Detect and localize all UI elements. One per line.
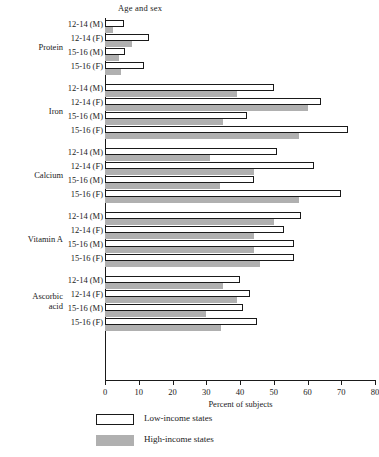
bar-high-income bbox=[105, 69, 121, 75]
bar-low-income bbox=[105, 176, 254, 183]
x-tick bbox=[206, 380, 207, 385]
bar-low-income bbox=[105, 318, 257, 325]
x-tick-label: 40 bbox=[236, 387, 245, 397]
bar-row bbox=[105, 254, 376, 268]
bar-row bbox=[105, 148, 376, 162]
category-label: 15-16 (F) bbox=[71, 253, 103, 263]
category-label: 15-16 (M) bbox=[68, 175, 103, 185]
category-label: 15-16 (F) bbox=[71, 317, 103, 327]
bar-low-income bbox=[105, 62, 144, 69]
category-label: 12-14 (M) bbox=[68, 211, 103, 221]
bar-group bbox=[105, 276, 376, 332]
x-tick bbox=[274, 380, 275, 385]
bar-low-income bbox=[105, 240, 294, 247]
category-label: 12-14 (F) bbox=[71, 97, 103, 107]
category-label: 12-14 (F) bbox=[71, 289, 103, 299]
x-tick bbox=[308, 380, 309, 385]
bar-high-income bbox=[105, 169, 254, 175]
x-tick-label: 30 bbox=[202, 387, 211, 397]
bar-row bbox=[105, 98, 376, 112]
bar-row bbox=[105, 190, 376, 204]
legend-label-high-income: High-income states bbox=[144, 434, 214, 444]
bar-row bbox=[105, 318, 376, 332]
bar-group bbox=[105, 84, 376, 140]
bar-row bbox=[105, 126, 376, 140]
legend-label-low-income: Low-income states bbox=[144, 413, 212, 423]
bar-row bbox=[105, 290, 376, 304]
bar-row bbox=[105, 226, 376, 240]
bar-high-income bbox=[105, 311, 206, 317]
x-tick bbox=[341, 380, 342, 385]
bar-low-income bbox=[105, 276, 240, 283]
bar-low-income bbox=[105, 212, 301, 219]
x-tick bbox=[105, 380, 106, 385]
category-label: 15-16 (M) bbox=[68, 239, 103, 249]
bar-row bbox=[105, 240, 376, 254]
group-label: Iron bbox=[0, 106, 63, 116]
bar-row bbox=[105, 34, 376, 48]
category-label: 12-14 (F) bbox=[71, 33, 103, 43]
bar-row bbox=[105, 20, 376, 34]
bar-low-income bbox=[105, 20, 124, 27]
bar-row bbox=[105, 276, 376, 290]
legend-swatch-low-income bbox=[96, 414, 134, 425]
x-tick-label: 10 bbox=[135, 387, 144, 397]
legend-swatch-high-income bbox=[96, 435, 134, 446]
x-tick-label: 60 bbox=[303, 387, 312, 397]
category-label: 15-16 (M) bbox=[68, 111, 103, 121]
bar-high-income bbox=[105, 325, 221, 331]
bar-high-income bbox=[105, 119, 223, 125]
bar-low-income bbox=[105, 98, 321, 105]
bar-low-income bbox=[105, 34, 149, 41]
bar-high-income bbox=[105, 297, 237, 303]
category-label: 15-16 (M) bbox=[68, 303, 103, 313]
plot-area: 01020304050607080 Percent of subjects bbox=[105, 18, 376, 380]
bar-high-income bbox=[105, 105, 308, 111]
bar-low-income bbox=[105, 112, 247, 119]
bar-row bbox=[105, 212, 376, 226]
bar-high-income bbox=[105, 197, 299, 203]
bar-group bbox=[105, 20, 376, 76]
bar-high-income bbox=[105, 247, 254, 253]
bar-high-income bbox=[105, 41, 132, 47]
group-label: Ascorbicacid bbox=[0, 291, 63, 311]
group-label: Calcium bbox=[0, 170, 63, 180]
bar-high-income bbox=[105, 283, 223, 289]
bar-row bbox=[105, 176, 376, 190]
category-label: 12-14 (M) bbox=[68, 275, 103, 285]
bar-low-income bbox=[105, 290, 250, 297]
category-label: 12-14 (M) bbox=[68, 83, 103, 93]
bar-high-income bbox=[105, 133, 299, 139]
category-label: 15-16 (M) bbox=[68, 47, 103, 57]
bar-high-income bbox=[105, 91, 237, 97]
bar-high-income bbox=[105, 219, 274, 225]
x-tick bbox=[173, 380, 174, 385]
x-tick-label: 70 bbox=[337, 387, 346, 397]
bar-row bbox=[105, 62, 376, 76]
bar-high-income bbox=[105, 233, 254, 239]
x-tick bbox=[240, 380, 241, 385]
bar-low-income bbox=[105, 48, 125, 55]
bar-high-income bbox=[105, 155, 210, 161]
x-axis-label: Percent of subjects bbox=[105, 399, 376, 409]
x-tick bbox=[375, 380, 376, 385]
category-label: 12-14 (M) bbox=[68, 19, 103, 29]
group-label: Vitamin A bbox=[0, 234, 63, 244]
category-label: 15-16 (F) bbox=[71, 189, 103, 199]
bar-low-income bbox=[105, 148, 277, 155]
y-axis-title: Age and sex bbox=[118, 3, 162, 13]
category-label: 12-14 (F) bbox=[71, 161, 103, 171]
bar-row bbox=[105, 84, 376, 98]
bar-low-income bbox=[105, 254, 294, 261]
x-tick-label: 0 bbox=[103, 387, 107, 397]
x-tick bbox=[139, 380, 140, 385]
category-label: 15-16 (F) bbox=[71, 61, 103, 71]
bar-high-income bbox=[105, 55, 119, 61]
bar-row bbox=[105, 48, 376, 62]
bar-row bbox=[105, 112, 376, 126]
bar-high-income bbox=[105, 261, 260, 267]
bar-group bbox=[105, 212, 376, 268]
group-label-line2: acid bbox=[0, 301, 63, 311]
bar-high-income bbox=[105, 27, 113, 33]
